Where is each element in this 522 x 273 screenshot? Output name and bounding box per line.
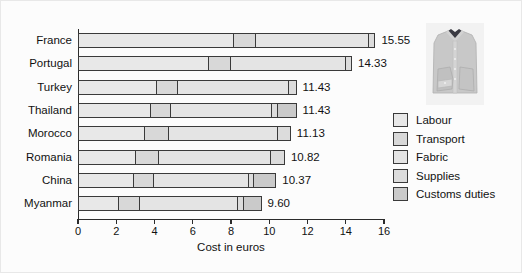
bar-segment-transport[interactable] xyxy=(145,127,169,140)
bar-segment-transport[interactable] xyxy=(157,81,178,94)
bar-segment-fabric[interactable] xyxy=(178,81,290,94)
bar-segment-transport[interactable] xyxy=(119,197,140,210)
bar-segment-fabric[interactable] xyxy=(159,151,272,164)
x-tick-label: 0 xyxy=(75,225,81,237)
legend-label: Labour xyxy=(416,114,452,126)
x-tick xyxy=(307,219,308,224)
legend-swatch xyxy=(393,150,408,164)
bar-value-label: 10.37 xyxy=(282,170,311,191)
bar-segment-labour[interactable] xyxy=(79,197,119,210)
bar-segment-labour[interactable] xyxy=(79,151,136,164)
bar-segment-customs-duties[interactable] xyxy=(254,174,275,187)
x-tick xyxy=(383,219,384,224)
bar-value-label: 14.33 xyxy=(358,53,387,74)
legend: LabourTransportFabricSuppliesCustoms dut… xyxy=(393,111,519,204)
x-tick-label: 12 xyxy=(301,225,313,237)
legend-swatch xyxy=(393,113,408,127)
stacked-bar[interactable] xyxy=(78,56,352,71)
legend-item[interactable]: Supplies xyxy=(393,167,519,186)
stacked-bar[interactable] xyxy=(78,80,297,95)
category-label: Romania xyxy=(5,147,72,168)
x-tick xyxy=(116,219,117,224)
category-label: Myanmar xyxy=(5,193,72,214)
bar-value-label: 11.13 xyxy=(297,123,325,144)
stacked-bar[interactable] xyxy=(78,150,285,165)
category-label: Portugal xyxy=(5,53,72,74)
x-axis-title: Cost in euros xyxy=(78,241,384,253)
x-tick-label: 6 xyxy=(190,225,196,237)
bar-value-label: 11.43 xyxy=(303,77,331,98)
bar-segment-transport[interactable] xyxy=(234,34,256,47)
category-label: Morocco xyxy=(5,123,72,144)
x-tick xyxy=(230,219,231,224)
bar-segment-fabric[interactable] xyxy=(171,104,272,117)
stacked-bar[interactable] xyxy=(78,126,291,141)
bar-segment-fabric[interactable] xyxy=(154,174,250,187)
category-label: China xyxy=(5,170,72,191)
bar-segment-fabric[interactable] xyxy=(169,127,279,140)
bar-segment-fabric[interactable] xyxy=(140,197,238,210)
bar-segment-fabric[interactable] xyxy=(256,34,369,47)
x-tick xyxy=(269,219,270,224)
bar-segment-transport[interactable] xyxy=(151,104,171,117)
x-tick-label: 8 xyxy=(228,225,234,237)
product-photo xyxy=(426,23,484,105)
bar-segment-fabric[interactable] xyxy=(231,57,346,70)
bar-value-label: 11.43 xyxy=(303,100,331,121)
legend-swatch xyxy=(393,132,408,146)
stacked-bar[interactable] xyxy=(78,103,297,118)
bar-value-label: 15.55 xyxy=(381,30,410,51)
bar-segment-supplies[interactable] xyxy=(278,127,289,140)
legend-item[interactable]: Customs duties xyxy=(393,185,519,204)
bar-segment-labour[interactable] xyxy=(79,34,234,47)
x-tick-label: 10 xyxy=(263,225,275,237)
bar-segment-supplies[interactable] xyxy=(346,57,351,70)
bar-segment-supplies[interactable] xyxy=(369,34,374,47)
bar-segment-labour[interactable] xyxy=(79,127,145,140)
bar-segment-supplies[interactable] xyxy=(289,81,295,94)
category-label: Turkey xyxy=(5,77,72,98)
legend-label: Transport xyxy=(416,133,465,145)
bar-segment-supplies[interactable] xyxy=(271,151,283,164)
chart-figure: 0246810121416 France15.55Portugal14.33Tu… xyxy=(0,0,522,273)
legend-label: Supplies xyxy=(416,170,460,182)
bar-segment-labour[interactable] xyxy=(79,104,151,117)
shirt-illustration xyxy=(426,23,484,105)
x-tick-label: 16 xyxy=(378,225,390,237)
legend-item[interactable]: Transport xyxy=(393,130,519,149)
stacked-bar[interactable] xyxy=(78,196,262,211)
bar-segment-transport[interactable] xyxy=(136,151,159,164)
category-label: France xyxy=(5,30,72,51)
bar-value-label: 10.82 xyxy=(291,147,320,168)
x-tick-label: 14 xyxy=(340,225,352,237)
bar-segment-labour[interactable] xyxy=(79,174,134,187)
x-tick xyxy=(345,219,346,224)
bar-segment-transport[interactable] xyxy=(209,57,231,70)
bar-segment-labour[interactable] xyxy=(79,81,157,94)
bar-segment-customs-duties[interactable] xyxy=(244,197,261,210)
x-tick xyxy=(154,219,155,224)
bar-value-label: 9.60 xyxy=(268,193,290,214)
legend-item[interactable]: Labour xyxy=(393,111,519,130)
bar-segment-transport[interactable] xyxy=(134,174,154,187)
x-tick-label: 4 xyxy=(151,225,157,237)
legend-label: Customs duties xyxy=(416,188,495,200)
bar-segment-customs-duties[interactable] xyxy=(278,104,296,117)
stacked-bar[interactable] xyxy=(78,173,276,188)
legend-item[interactable]: Fabric xyxy=(393,148,519,167)
category-label: Thailand xyxy=(5,100,72,121)
x-tick-label: 2 xyxy=(113,225,119,237)
x-tick xyxy=(192,219,193,224)
bar-segment-labour[interactable] xyxy=(79,57,209,70)
legend-label: Fabric xyxy=(416,151,448,163)
legend-swatch xyxy=(393,169,408,183)
x-tick xyxy=(77,219,78,224)
stacked-bar[interactable] xyxy=(78,33,375,48)
legend-swatch xyxy=(393,187,408,201)
